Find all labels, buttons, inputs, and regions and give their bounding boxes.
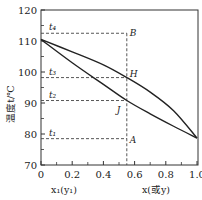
y-tick-label: 80 bbox=[24, 129, 37, 140]
x-axis-label-left: x₁(y₁) bbox=[51, 184, 77, 195]
x-tick-label: 0.8 bbox=[158, 169, 174, 180]
phase-diagram-chart: 70809010011012000.20.40.60.81.0 t₄t₃t₂t₁… bbox=[0, 0, 202, 200]
plot-frame bbox=[41, 10, 198, 165]
isotherm-label: t₂ bbox=[49, 90, 57, 100]
point-label-a: A bbox=[129, 135, 137, 145]
x-tick-label: 0.2 bbox=[64, 169, 80, 180]
point-label-j: J bbox=[115, 105, 122, 115]
y-tick-label: 120 bbox=[18, 5, 37, 16]
y-tick-label: 110 bbox=[18, 36, 37, 47]
point-label-b: B bbox=[129, 28, 137, 38]
point-label-h: H bbox=[129, 69, 138, 79]
y-tick-label: 70 bbox=[24, 160, 37, 171]
isotherm-label: t₁ bbox=[49, 128, 56, 138]
y-tick-label: 90 bbox=[24, 98, 37, 109]
x-tick-label: 0 bbox=[38, 169, 44, 180]
y-axis-label: 温度t/℃ bbox=[5, 85, 16, 123]
bubble-point-curve bbox=[41, 39, 197, 138]
x-axis-label-right: x(或y) bbox=[142, 184, 170, 195]
x-tick-label: 1.0 bbox=[189, 169, 202, 180]
x-tick-label: 0.6 bbox=[127, 169, 143, 180]
x-tick-label: 0.4 bbox=[95, 169, 111, 180]
dew-point-curve bbox=[41, 39, 197, 138]
isotherm-label: t₃ bbox=[49, 67, 57, 77]
isotherm-label: t₄ bbox=[49, 22, 57, 32]
y-tick-label: 100 bbox=[18, 67, 37, 78]
